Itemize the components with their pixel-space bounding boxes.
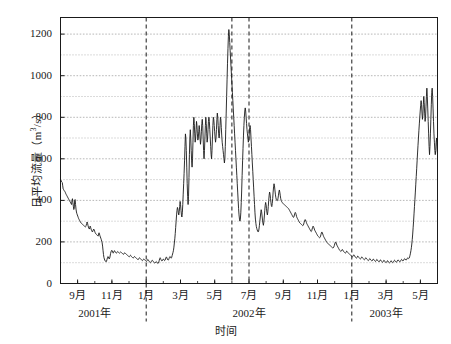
year-label: 2001年 <box>60 308 130 319</box>
y-tick-label: 400 <box>8 194 52 205</box>
y-tick-label: 1200 <box>8 28 52 39</box>
y-tick-label: 200 <box>8 236 52 247</box>
vertical-dashed-lines <box>146 18 352 322</box>
y-tick-label: 0 <box>8 278 52 289</box>
y-tick-label: 800 <box>8 111 52 122</box>
year-label: 2003年 <box>351 308 421 319</box>
chart-figure: 日平均流量（m3/s） 时间 020040060080010001200 9月1… <box>0 0 451 344</box>
y-tick-label: 600 <box>8 153 52 164</box>
x-tick-label: 5月 <box>395 290 445 301</box>
x-axis-title: 时间 <box>0 322 451 338</box>
y-tick-label: 1000 <box>8 70 52 81</box>
year-label: 2002年 <box>214 308 284 319</box>
